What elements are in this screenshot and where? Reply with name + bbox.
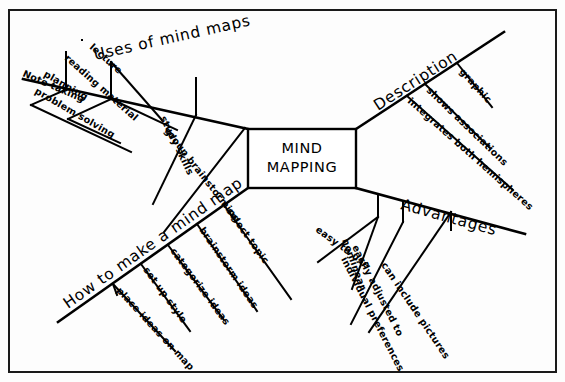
- center-label-line2: MAPPING: [267, 159, 337, 175]
- label-integrates-both-hemispheres: integrates both hemispheres: [406, 95, 536, 212]
- label-uses-of-mind-maps: Uses of mind maps: [92, 11, 252, 64]
- center-topic-node[interactable]: MIND MAPPING: [248, 129, 356, 188]
- sub-can-include-pictures: [369, 212, 451, 332]
- label-advantages: Advantages: [399, 196, 499, 240]
- page-border: [9, 10, 556, 372]
- center-label-line1: MIND: [281, 140, 322, 156]
- branch-description[interactable]: Description graphic shows associations i…: [356, 32, 536, 212]
- branch-howto[interactable]: How to make a mind map select topic brai…: [58, 174, 291, 373]
- branch-advantages[interactable]: Advantages easy to use nonlinear easily …: [314, 188, 525, 373]
- mindmap-canvas: Uses of mind maps Note taking lecture re…: [0, 0, 565, 382]
- label-place-ideas-on-map: place ideas on map: [115, 285, 197, 372]
- label-graphic: graphic: [458, 66, 495, 105]
- label-select-topic: select topic: [224, 206, 271, 266]
- mindmap-diagram: Uses of mind maps Note taking lecture re…: [0, 0, 565, 382]
